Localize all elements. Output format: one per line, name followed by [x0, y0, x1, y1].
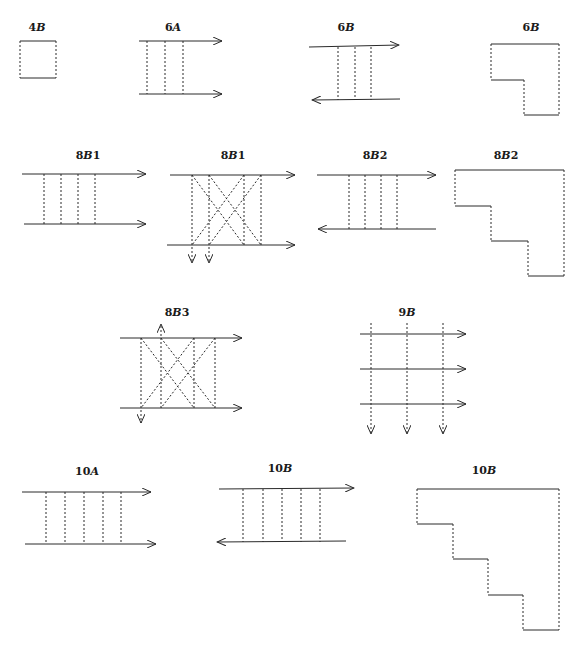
- diagram-10A-flow: [22, 492, 156, 544]
- diagram-10B-flow: [217, 488, 354, 542]
- diagram-6A-flow: [139, 41, 222, 94]
- diagram-8B3-crossed: [120, 324, 242, 423]
- diagram-10B-shape: [417, 489, 559, 630]
- diagram-6B-shape: [491, 44, 559, 115]
- diagram-9B-grid: [360, 323, 466, 434]
- diagram-8B2-shape: [455, 170, 564, 276]
- diagram-8B1-flow: [22, 174, 146, 224]
- diagram-4B-square: [20, 41, 56, 78]
- diagram-6B-flow: [309, 45, 400, 100]
- diagram-8B1-crossed: [167, 175, 295, 263]
- diagram-8B2-flow: [317, 175, 436, 229]
- diagram-canvas: [0, 0, 578, 653]
